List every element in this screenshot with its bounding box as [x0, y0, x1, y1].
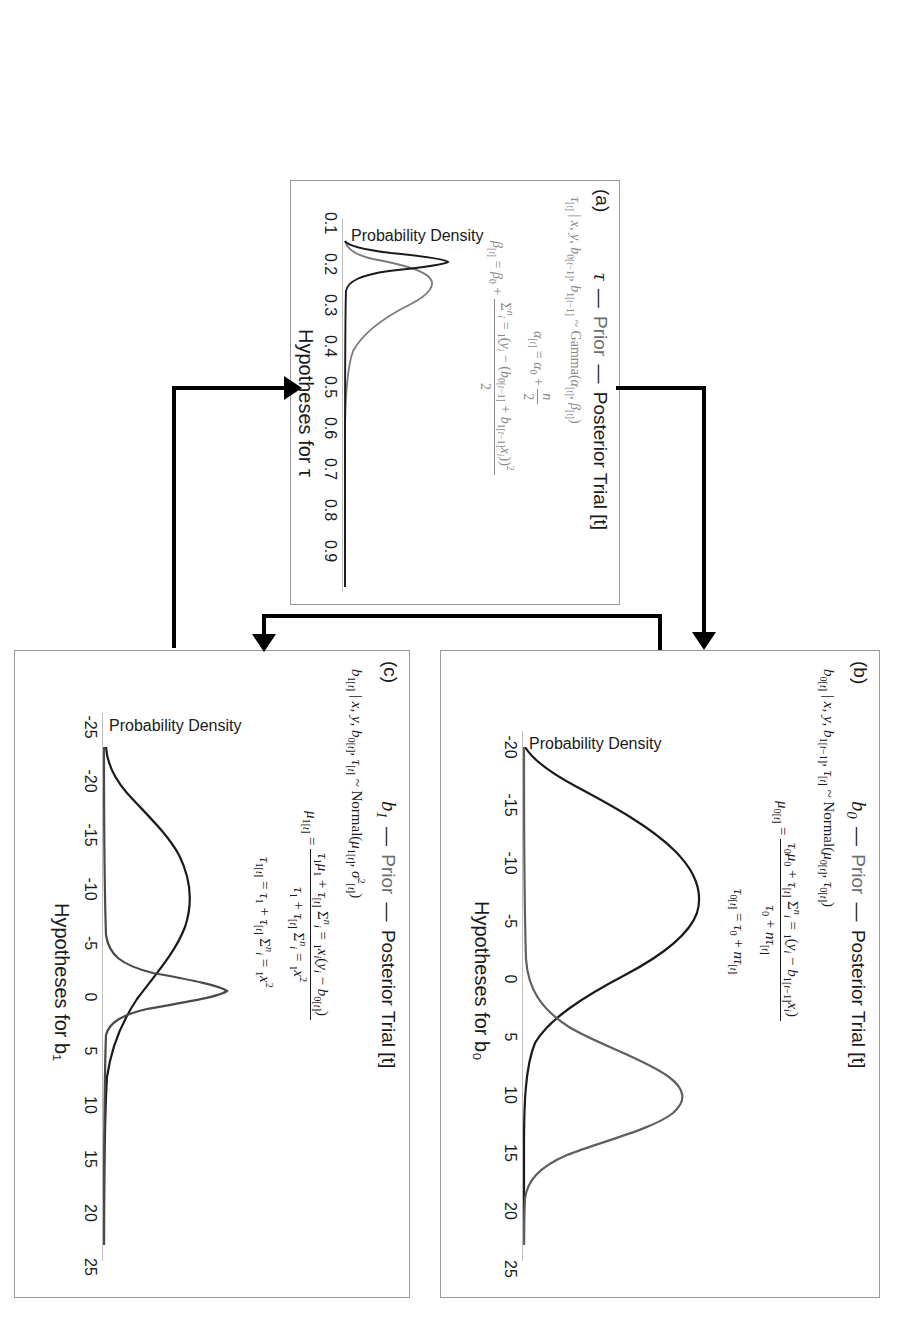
panel-b-xtick-0: -20 [501, 730, 519, 764]
panel-b-plot [522, 747, 707, 1247]
figure-canvas: (a) τ — Prior — Posterior Trial [t] τ[t]… [0, 0, 902, 1322]
panel-a-prior-label: Prior [590, 316, 611, 356]
panel-a-model-equation: τ[t] | x, y, b0[t−1], b1[t−1] ~ Gamma(α[… [565, 197, 583, 424]
panel-a-title-var: τ [589, 273, 613, 281]
panel-c-mu-equation: μ1[t] = τ1μ1 + τ[t] Σni = 1xi(yi − b0[t]… [288, 811, 333, 1020]
panel-a-dash-1: — [590, 286, 611, 311]
panel-b-xtick-5: 5 [501, 1020, 519, 1054]
panel-b-xtick-6: 10 [501, 1078, 519, 1112]
connector-b-to-c-horizontal [658, 614, 662, 650]
panel-b-title: b0 — Prior — Posterior Trial [t] [843, 801, 871, 1068]
panel-b-xtick-4: 0 [501, 962, 519, 996]
panel-b-mu-equation: μ0[t] = τ0μ0 + τ[t] Σni = 1(yi − b1[t−1]… [760, 801, 803, 1021]
panel-b-xtick-2: -10 [501, 846, 519, 880]
panel-c-title-var: b1 [377, 801, 401, 819]
panel-c-yaxis-title: Probability Density [109, 717, 242, 735]
panel-b-xtick-1: -15 [501, 788, 519, 822]
panel-b-model-equation: b0[t] | x, y, b1[t−1], τ[t] ~ Normal(μ0[… [818, 669, 837, 907]
panel-c-xtick-2: -15 [81, 818, 99, 852]
panel-a-xtick-5: 0.6 [321, 413, 339, 443]
panel-b-xtick-7: 15 [501, 1136, 519, 1170]
connector-a-to-b-horizontal [702, 386, 706, 634]
panel-a-xtick-7: 0.8 [321, 495, 339, 525]
panel-a-yaxis-title: Probability Density [351, 227, 484, 245]
panel-a-xtick-4: 0.5 [321, 372, 339, 402]
panel-a-xtick-3: 0.4 [321, 331, 339, 361]
panel-c-xaxis-line [102, 713, 103, 1261]
panel-b-yaxis-title: Probability Density [529, 735, 662, 753]
panel-c-tag: (c) [379, 661, 401, 683]
panel-c-xtick-6: 5 [81, 1034, 99, 1068]
panel-c-plot [103, 747, 233, 1247]
panel-a-tag: (a) [591, 189, 613, 212]
panel-a: (a) τ — Prior — Posterior Trial [t] τ[t]… [290, 180, 620, 605]
panel-b-xtick-8: 20 [501, 1194, 519, 1228]
panel-a-xaxis-line [342, 219, 343, 591]
panel-c-xtick-5: 0 [81, 980, 99, 1014]
connector-a-to-b-arrowhead [692, 632, 716, 650]
panel-c-tau-equation: τ1[t] = τ1 + τ[t] Σni = 1x2 [254, 857, 275, 988]
connector-b-to-c-arrowhead [252, 634, 276, 652]
rotated-figure: (a) τ — Prior — Posterior Trial [t] τ[t]… [0, 0, 902, 1322]
panel-a-xtick-2: 0.3 [321, 290, 339, 320]
connector-c-to-a-horizontal [172, 386, 176, 648]
panel-b: (b) b0 — Prior — Posterior Trial [t] b0[… [440, 650, 880, 1298]
panel-c-xtick-9: 20 [81, 1196, 99, 1230]
panel-a-xtick-1: 0.2 [321, 249, 339, 279]
panel-c: (c) b1 — Prior — Posterior Trial [t] b1[… [14, 650, 410, 1298]
panel-c-xtick-4: -5 [81, 926, 99, 960]
panel-b-posterior-label: Posterior Trial [t] [848, 930, 869, 1068]
connector-b-to-c-vertical [262, 614, 662, 618]
panel-c-xtick-0: -25 [81, 710, 99, 744]
panel-b-dash-2: — [848, 900, 869, 925]
panel-b-tau-equation: τ0[t] = τ0 + nτ[t] [728, 889, 747, 974]
panel-b-xticks: -20 -15 -10 -5 0 5 10 15 20 25 [497, 731, 519, 1261]
connector-a-to-b-vertical [616, 386, 706, 390]
panel-b-prior-label: Prior [848, 854, 869, 894]
panel-c-model-equation: b1[t] | x, y, b0[t], τ[t] ~ Normal(μ1[t]… [346, 669, 367, 898]
panel-c-xtick-3: -10 [81, 872, 99, 906]
panel-a-dash-2: — [590, 362, 611, 387]
panel-b-title-var: b0 [847, 801, 871, 819]
panel-b-xaxis-title: Hypotheses for b₀ [470, 901, 493, 1061]
panel-c-xaxis-title: Hypotheses for b₁ [50, 903, 73, 1061]
panel-c-dash-1: — [378, 824, 399, 849]
panel-c-posterior-label: Posterior Trial [t] [378, 930, 399, 1068]
panel-a-beta-equation: β[t] = β0 + Σni = 1(yi − (b0[t−1] + b1[t… [477, 241, 515, 475]
panel-b-tag: (b) [849, 661, 871, 684]
connector-c-to-a-arrowhead [284, 376, 302, 400]
panel-b-xtick-3: -5 [501, 904, 519, 938]
panel-c-xtick-8: 15 [81, 1142, 99, 1176]
panel-c-title: b1 — Prior — Posterior Trial [t] [373, 801, 401, 1068]
panel-c-xtick-7: 10 [81, 1088, 99, 1122]
panel-c-xticks: -25 -20 -15 -10 -5 0 5 10 15 20 25 [77, 713, 99, 1261]
panel-c-prior-label: Prior [378, 854, 399, 894]
connector-b-to-c-horizontal-2 [262, 614, 266, 636]
connector-c-to-a-vertical [172, 386, 290, 390]
panel-a-alpha-equation: α[t] = α0 + n2 [520, 331, 555, 404]
panel-b-dash-1: — [848, 824, 869, 849]
panel-a-plot [343, 239, 451, 589]
panel-a-posterior-label: Posterior Trial [t] [590, 392, 611, 530]
panel-b-xaxis-line [522, 731, 523, 1261]
panel-a-title: τ — Prior — Posterior Trial [t] [588, 273, 613, 530]
panel-c-xtick-10: 25 [81, 1250, 99, 1284]
panel-b-xtick-9: 25 [501, 1252, 519, 1286]
panel-c-xtick-1: -20 [81, 764, 99, 798]
panel-a-xticks: 0.1 0.2 0.3 0.4 0.5 0.6 0.7 0.8 0.9 [317, 219, 339, 591]
panel-a-xtick-6: 0.7 [321, 454, 339, 484]
panel-a-xaxis-title: Hypotheses for τ [294, 329, 317, 477]
panel-a-xtick-0: 0.1 [321, 208, 339, 238]
panel-c-dash-2: — [378, 900, 399, 925]
panel-a-xtick-8: 0.9 [321, 536, 339, 566]
